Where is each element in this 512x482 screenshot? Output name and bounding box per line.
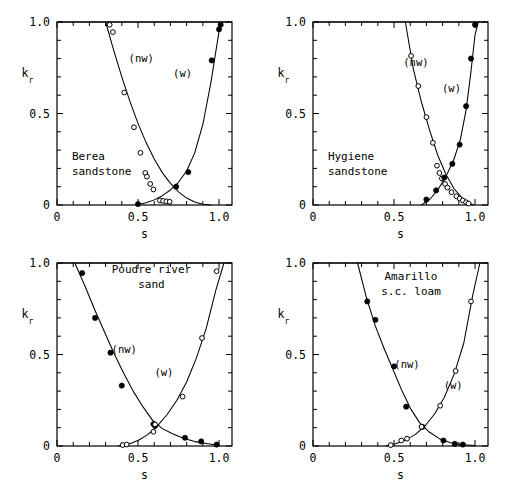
- data-point-open: [151, 429, 156, 434]
- series-label-w: (w): [442, 82, 461, 94]
- sample-title-line: Berea: [72, 150, 105, 163]
- y-tick-label: 0.5: [29, 107, 50, 121]
- panel-poudre-svg: 00.51.000.51.0skrPoudre riversand(nw)(w): [0, 241, 256, 482]
- data-point-open: [466, 201, 471, 206]
- data-point-filled: [460, 442, 465, 447]
- y-tick-label: 0.5: [285, 348, 306, 362]
- x-tick-label: 0: [54, 210, 61, 224]
- series-label-w: (w): [173, 67, 192, 79]
- data-point-open: [200, 336, 205, 341]
- data-point-open: [431, 140, 436, 145]
- data-point-filled: [80, 270, 85, 275]
- panel-hygiene-sandstone: 00.51.000.51.0skrHygienesandstone(nw)(w): [256, 0, 512, 241]
- x-tick-label: 1.0: [209, 451, 230, 465]
- y-axis-title-sub: r: [29, 317, 34, 326]
- panel-berea-svg: 00.51.000.51.0skrBereasandstone(nw)(w): [0, 0, 256, 241]
- data-point-open: [111, 30, 116, 35]
- y-axis-title-main: k: [278, 307, 285, 321]
- sample-title: Poudre riversand: [112, 263, 192, 291]
- data-point-open: [416, 84, 421, 89]
- data-point-open: [138, 150, 143, 155]
- data-point-filled: [92, 315, 97, 320]
- data-point-open: [214, 269, 219, 274]
- y-tick-label: 0: [299, 198, 306, 212]
- data-point-filled: [464, 104, 469, 109]
- panel-amarillo-sc-loam: 00.51.000.51.0skrAmarillos.c. loam(nw)(w…: [256, 241, 512, 482]
- x-axis-title: s: [397, 468, 404, 482]
- y-axis-title-sub: r: [285, 317, 290, 326]
- data-point-filled: [457, 142, 462, 147]
- data-point-filled: [452, 441, 457, 446]
- data-point-open: [469, 299, 474, 304]
- sample-title-line: Poudre river: [112, 263, 192, 276]
- data-point-open: [449, 190, 454, 195]
- x-tick-label: 0.5: [384, 210, 405, 224]
- sample-title: Bereasandstone: [72, 150, 132, 178]
- series-label-nw: (nw): [112, 343, 137, 355]
- data-point-open: [132, 125, 137, 130]
- data-point-filled: [404, 404, 409, 409]
- x-tick-label: 0: [310, 210, 317, 224]
- sample-title-line: Hygiene: [328, 150, 374, 163]
- y-tick-label: 0: [43, 439, 50, 453]
- data-point-open: [435, 163, 440, 168]
- x-tick-label: 0: [310, 451, 317, 465]
- data-point-open: [419, 424, 424, 429]
- x-axis-title: s: [397, 227, 404, 241]
- data-point-open: [405, 436, 410, 441]
- data-point-open: [124, 442, 129, 447]
- y-tick-label: 0: [299, 439, 306, 453]
- x-tick-label: 0: [54, 451, 61, 465]
- data-point-open: [122, 90, 127, 95]
- sample-title-line: sandstone: [328, 165, 388, 178]
- series-label-nw: (nw): [394, 358, 419, 370]
- data-point-open: [445, 185, 450, 190]
- data-point-filled: [424, 197, 429, 202]
- x-tick-label: 1.0: [209, 210, 230, 224]
- data-point-filled: [209, 58, 214, 63]
- data-point-filled: [135, 201, 140, 206]
- data-point-open: [438, 403, 443, 408]
- series-label-w: (w): [444, 379, 463, 391]
- panel-berea-sandstone: 00.51.000.51.0skrBereasandstone(nw)(w): [0, 0, 256, 241]
- sample-title: Hygienesandstone: [328, 150, 388, 178]
- data-point-open: [453, 369, 458, 374]
- series-label-nw: (nw): [403, 56, 428, 68]
- x-tick-label: 0.5: [128, 451, 149, 465]
- y-tick-label: 0.5: [29, 348, 50, 362]
- data-point-filled: [182, 435, 187, 440]
- data-point-open: [180, 394, 185, 399]
- data-point-open: [148, 182, 153, 187]
- data-point-open: [153, 422, 158, 427]
- y-axis-title-sub: r: [29, 76, 34, 85]
- y-axis-title: kr: [278, 307, 290, 326]
- data-point-open: [145, 174, 150, 179]
- x-tick-label: 1.0: [465, 451, 486, 465]
- series-label-nw: (nw): [129, 52, 154, 64]
- data-point-open: [399, 438, 404, 443]
- data-point-filled: [119, 383, 124, 388]
- data-point-open: [167, 199, 172, 204]
- sample-title-line: sand: [138, 278, 165, 291]
- sample-title-line: Amarillo: [385, 270, 438, 283]
- y-tick-label: 1.0: [285, 256, 306, 270]
- data-point-open: [424, 115, 429, 120]
- y-tick-label: 1.0: [285, 15, 306, 29]
- y-tick-label: 0: [43, 198, 50, 212]
- panel-hygiene-svg: 00.51.000.51.0skrHygienesandstone(nw)(w): [256, 0, 512, 241]
- series-curve: [422, 22, 479, 205]
- data-point-filled: [472, 22, 477, 27]
- x-tick-label: 0.5: [384, 451, 405, 465]
- data-point-open: [437, 171, 442, 176]
- data-point-filled: [199, 439, 204, 444]
- y-axis-title: kr: [278, 66, 290, 85]
- y-axis-title-main: k: [22, 307, 29, 321]
- panel-poudre-river-sand: 00.51.000.51.0skrPoudre riversand(nw)(w): [0, 241, 256, 482]
- x-tick-label: 1.0: [465, 210, 486, 224]
- y-axis-title-sub: r: [285, 76, 290, 85]
- data-point-open: [388, 443, 393, 448]
- y-axis-title-main: k: [278, 66, 285, 80]
- data-point-open: [151, 187, 156, 192]
- sample-title-line: s.c. loam: [381, 285, 441, 298]
- y-axis-title: kr: [22, 66, 34, 85]
